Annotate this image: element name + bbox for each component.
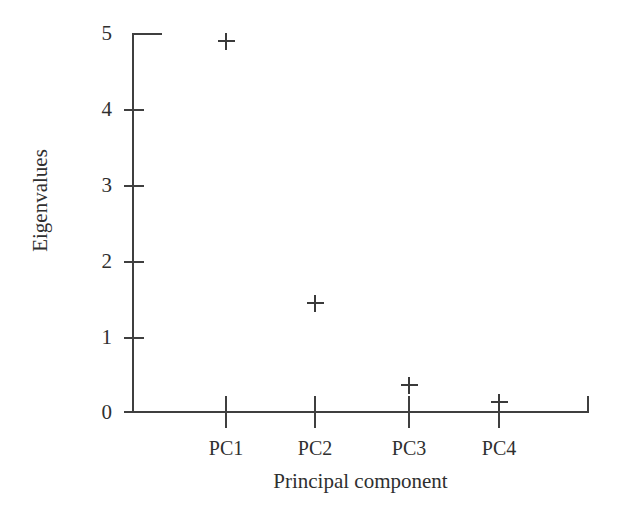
y-tick-label-1: 1 [86, 327, 112, 348]
y-tick-mark-3 [124, 185, 144, 187]
y-tick-mark-4 [124, 109, 144, 111]
y-tick-mark-0 [124, 411, 144, 413]
y-axis-line [132, 33, 134, 413]
x-axis-title: Principal component [132, 470, 589, 493]
x-tick-label-pc4: PC4 [459, 437, 539, 459]
x-tick-mark-pc1 [225, 396, 227, 428]
x-tick-mark-pc2 [314, 396, 316, 428]
y-tick-mark-2 [124, 261, 144, 263]
y-tick-label-2: 2 [86, 251, 112, 272]
x-tick-mark-pc3 [408, 396, 410, 428]
x-axis-terminal-tick [587, 396, 589, 413]
y-tick-label-5: 5 [86, 23, 112, 44]
y-tick-label-4: 4 [86, 99, 112, 120]
y-tick-mark-5 [132, 33, 162, 35]
y-tick-label-0: 0 [86, 402, 112, 423]
x-axis-line [132, 411, 589, 413]
scree-plot-figure: Eigenvalues 5 4 3 2 1 0 PC1 PC2 PC3 PC4 … [0, 0, 623, 522]
x-tick-label-pc3: PC3 [369, 437, 449, 459]
data-point-pc3 [401, 377, 418, 394]
data-point-pc4 [491, 394, 508, 411]
x-tick-label-pc1: PC1 [186, 437, 266, 459]
y-tick-mark-1 [124, 337, 144, 339]
x-tick-label-pc2: PC2 [275, 437, 355, 459]
y-axis-title: Eigenvalues [30, 121, 51, 281]
y-tick-label-3: 3 [86, 175, 112, 196]
data-point-pc2 [307, 295, 324, 312]
data-point-pc1 [218, 33, 235, 50]
